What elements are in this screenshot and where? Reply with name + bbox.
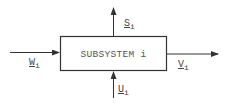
label-v-subscript: i <box>184 63 189 72</box>
label-w-subscript: i <box>35 61 40 70</box>
label-s: Si <box>124 19 135 29</box>
label-u-subscript: i <box>124 88 129 97</box>
label-w: Wi <box>29 58 40 68</box>
label-s-subscript: i <box>130 22 135 31</box>
subsystem-label: SUBSYSTEM i <box>60 49 167 60</box>
label-v: Vi <box>178 60 189 70</box>
label-u: Ui <box>118 85 129 95</box>
